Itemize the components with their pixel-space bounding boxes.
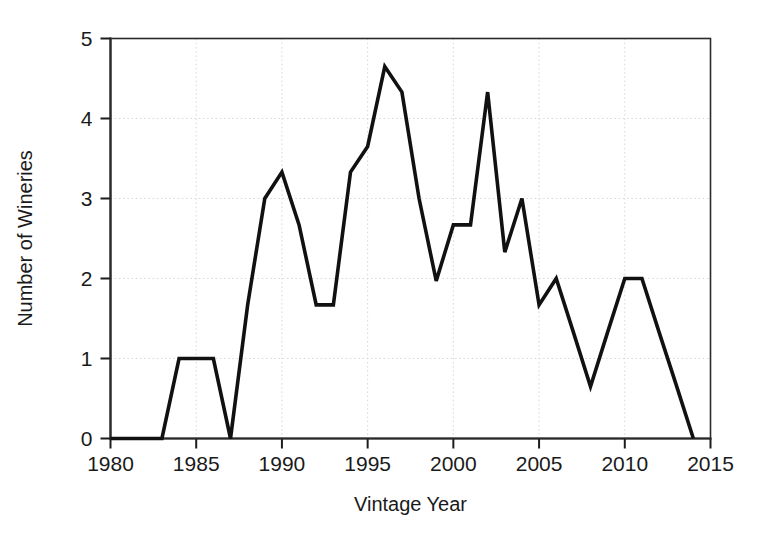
y-tick-label: 5 (81, 27, 93, 50)
x-tick-label: 1980 (87, 452, 134, 475)
y-tick-label: 0 (81, 427, 93, 450)
y-axis-title: Number of Wineries (14, 150, 36, 327)
x-tick-label: 1985 (173, 452, 220, 475)
x-tick-label: 2010 (601, 452, 648, 475)
y-tick-label: 1 (81, 347, 93, 370)
y-tick-label: 3 (81, 187, 93, 210)
chart-container: 19801985199019952000200520102015 012345 … (0, 0, 771, 539)
x-tick-label: 2000 (430, 452, 477, 475)
x-tick-label: 1990 (259, 452, 306, 475)
x-tick-label: 2005 (516, 452, 563, 475)
x-axis-title: Vintage Year (354, 493, 467, 515)
y-tick-label: 4 (81, 107, 93, 130)
x-tick-label: 2015 (687, 452, 734, 475)
line-chart: 19801985199019952000200520102015 012345 … (0, 0, 771, 539)
y-tick-label: 2 (81, 267, 93, 290)
x-tick-label: 1995 (344, 452, 391, 475)
